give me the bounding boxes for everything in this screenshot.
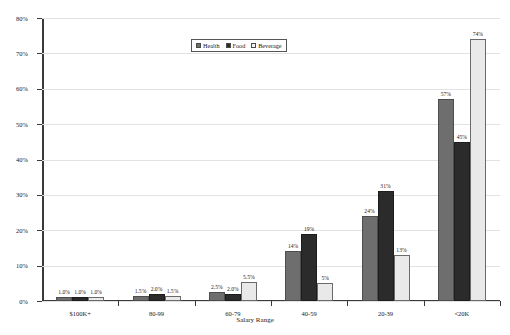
bar-value-label: 1.5% [159, 288, 187, 294]
y-axis-tick-label: 40% [0, 156, 28, 163]
bar [165, 296, 181, 301]
bar [72, 297, 88, 301]
bar [454, 142, 470, 301]
bar [285, 251, 301, 301]
bar-chart: 0%10%20%30%40%50%60%70%80%$100K+1.0%1.0%… [0, 0, 510, 335]
legend-label: Beverage [258, 42, 281, 49]
bar [88, 297, 104, 301]
bar-value-label: 13% [388, 247, 416, 253]
gridline [42, 266, 500, 267]
bar [149, 294, 165, 301]
gridline [42, 124, 500, 125]
bar [209, 292, 225, 301]
x-axis-tick [118, 301, 119, 306]
bar [394, 255, 410, 301]
bar-value-label: 31% [372, 183, 400, 189]
bar [133, 296, 149, 301]
y-axis-tick [37, 230, 42, 231]
bar [56, 297, 72, 301]
legend-swatch-icon [251, 43, 256, 48]
legend-entry-food: Food [226, 42, 246, 49]
bar-value-label: 5% [311, 275, 339, 281]
y-axis-tick [37, 301, 42, 302]
gridline [42, 18, 500, 19]
legend-label: Health [203, 42, 220, 49]
bar-value-label: 5.5% [235, 274, 263, 280]
x-axis-title: Salary Range [0, 316, 510, 324]
bar-value-label: 1.0% [82, 289, 110, 295]
y-axis-tick [37, 89, 42, 90]
x-axis-tick [271, 301, 272, 306]
x-axis-tick [195, 301, 196, 306]
legend-swatch-icon [226, 43, 231, 48]
gridline [42, 53, 500, 54]
y-axis-tick [37, 124, 42, 125]
y-axis-tick-label: 60% [0, 85, 28, 92]
legend-entry-beverage: Beverage [251, 42, 281, 49]
bar [438, 99, 454, 301]
y-axis-tick [37, 266, 42, 267]
y-axis-tick [37, 160, 42, 161]
bar [317, 283, 333, 301]
chart-legend: HealthFoodBeverage [191, 39, 287, 52]
gridline [42, 230, 500, 231]
bar [301, 234, 317, 301]
legend-swatch-icon [196, 43, 201, 48]
bar-value-label: 74% [464, 31, 492, 37]
gridline [42, 160, 500, 161]
y-axis-tick-label: 10% [0, 262, 28, 269]
y-axis-tick-label: 0% [0, 298, 28, 305]
bar [362, 216, 378, 301]
y-axis-tick [37, 195, 42, 196]
gridline [42, 89, 500, 90]
bar [470, 39, 486, 301]
bar [225, 294, 241, 301]
y-axis-tick-label: 20% [0, 227, 28, 234]
bar-value-label: 57% [432, 91, 460, 97]
legend-entry-health: Health [196, 42, 220, 49]
y-axis-tick-label: 50% [0, 121, 28, 128]
gridline [42, 195, 500, 196]
x-axis-tick [424, 301, 425, 306]
x-axis-tick [500, 301, 501, 306]
y-axis-tick [37, 53, 42, 54]
y-axis-tick-label: 30% [0, 191, 28, 198]
y-axis-tick [37, 18, 42, 19]
x-axis-tick [347, 301, 348, 306]
bar [241, 282, 257, 301]
bar-value-label: 19% [295, 226, 323, 232]
y-axis-tick-label: 80% [0, 15, 28, 22]
y-axis-tick-label: 70% [0, 50, 28, 57]
plot-area: 0%10%20%30%40%50%60%70%80%$100K+1.0%1.0%… [42, 18, 500, 301]
legend-label: Food [233, 42, 246, 49]
